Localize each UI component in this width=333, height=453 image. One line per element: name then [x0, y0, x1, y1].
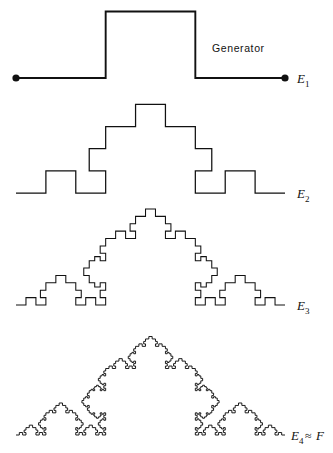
label-e1-subscript: 1: [305, 79, 310, 89]
label-e2: E 2: [296, 186, 310, 204]
curve-group-e3: [16, 209, 285, 305]
label-e4: E 4 ≈ F: [290, 428, 325, 446]
koch-path-e2: [16, 104, 285, 193]
label-e4-base: E: [290, 428, 299, 443]
label-e4-limit: F: [315, 428, 325, 443]
label-e3-subscript: 3: [305, 306, 310, 316]
label-e3-base: E: [296, 298, 305, 313]
label-e1-base: E: [296, 71, 305, 86]
label-e4-relation: ≈: [305, 429, 312, 443]
label-e4-subscript: 4: [299, 436, 304, 446]
koch-curve-figure: Generator E 1 E 2 E 3 E 4 ≈ F: [0, 0, 333, 453]
label-e1: E 1: [296, 71, 310, 89]
endpoint-dot-right: [281, 74, 288, 81]
koch-path-e3: [16, 209, 285, 305]
label-e2-subscript: 2: [305, 194, 310, 204]
label-e2-base: E: [296, 186, 305, 201]
curve-group-e4: [16, 337, 285, 436]
curve-group-e2: [16, 104, 285, 193]
endpoint-dot-left: [12, 74, 19, 81]
koch-path-e4: [16, 337, 285, 436]
label-e3: E 3: [296, 298, 310, 316]
generator-caption: Generator: [212, 42, 265, 54]
